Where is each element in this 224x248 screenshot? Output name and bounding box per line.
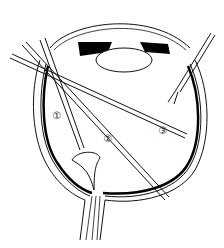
eyeball-outline bbox=[33, 60, 207, 240]
labels: ① ② ③ bbox=[53, 110, 168, 144]
lens bbox=[96, 48, 152, 72]
cornea bbox=[50, 24, 190, 48]
eye-diagram: ① ② ③ bbox=[0, 0, 224, 248]
label-2: ② bbox=[104, 133, 113, 144]
label-3: ③ bbox=[159, 125, 168, 136]
optic-nerve bbox=[86, 196, 100, 240]
choroid-layer bbox=[44, 66, 199, 194]
label-1: ① bbox=[53, 110, 62, 121]
